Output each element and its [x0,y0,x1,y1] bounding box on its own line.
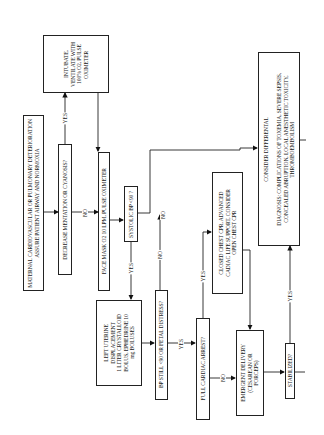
full-arrest-box: FULL CARDIAC ARREST? [196,318,210,420]
systolic-bp-text: SYSTOLIC BP <90 ? [128,191,135,238]
closed-cpr-text: CLOSED CHEST CPR, ADVANCED CADIAC LIFE S… [218,189,238,277]
closed-cpr-box: CLOSED CHEST CPR, ADVANCED CADIAC LIFE S… [212,172,243,294]
bp-still-box: BP STILL <90 OR FETAL DISTRESS? [155,290,168,400]
emergent-delivery-box: EMERGENT DELIVERY (CESAREAN OR FORCEPS) [236,330,264,416]
label-bp-still-no: NO [157,250,163,260]
full-arrest-text: FULL CARDIAC ARREST? [200,337,207,400]
face-mask-box: FACE MASK O2 10 LPM, PULSE OXIMETER [98,152,110,291]
emergent-delivery-text: EMERGENT DELIVERY (CESAREAN OR FORCEPS) [240,344,260,402]
stabilized-box: STABILIZED? [285,343,295,399]
bp-still-text: BP STILL <90 OR FETAL DISTRESS? [158,301,165,388]
differential-box: CONSIDER DIFFERENTAL DIAGNOSIS: COMPLICA… [258,52,300,246]
decrease-mentation-text: DECREASE MENTATION OR CYANOSIS? [62,160,69,260]
label-mentation-yes: YES [62,112,68,124]
left-uterine-box: LEFT UTERINE DISPLACEMENT 1 LITER CRYSTA… [96,300,142,386]
face-mask-text: FACE MASK O2 10 LPM, PULSE OXIMETER [101,168,108,274]
start-box: MATERNAL CARDIOVASCULAR OR PULMONARY DET… [23,115,44,291]
start-text: MATERNAL CARDIOVASCULAR OR PULMONARY DET… [27,119,40,288]
label-bp-still-yes: YES [178,338,184,350]
left-uterine-text: LEFT UTERINE DISPLACEMENT 1 LITER CRYSTA… [103,314,136,372]
stabilized-text: STABILIZED? [287,354,294,387]
label-systolic-yes: YES [128,262,134,274]
intubate-text: INTUBATE, VENTILATE WITH 100% O2, PULSE … [63,42,89,87]
label-systolic-no: NO [160,210,166,220]
label-stabilized-yes: YES [287,290,293,302]
label-arrest-no: NO [220,373,226,383]
systolic-bp-box: SYSTOLIC BP <90 ? [124,186,138,242]
label-arrest-yes: YES [200,270,206,282]
differential-text: CONSIDER DIFFERENTAL DIAGNOSIS: COMPLICA… [263,73,296,226]
decrease-mentation-box: DECREASE MENTATION OR CYANOSIS? [58,144,72,275]
intubate-box: INTUBATE, VENTILATE WITH 100% O2, PULSE … [43,35,109,93]
label-mentation-no: NO [82,208,88,218]
